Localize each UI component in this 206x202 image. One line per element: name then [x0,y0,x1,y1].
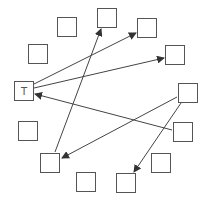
graph-node [178,83,198,103]
edges-layer [0,0,206,202]
graph-node [173,122,193,142]
graph-node [76,172,96,192]
graph-node [165,45,185,65]
graph-node-t: T [14,81,34,101]
edge-right-lower-to-t [35,94,172,130]
graph-node [18,121,38,141]
graph-node [137,18,157,38]
edge-t-to-right-upper [34,58,164,88]
edge-bottom-left-to-top [55,29,101,152]
graph-node [116,173,136,193]
graph-node [97,8,117,28]
graph-node [28,44,48,64]
graph-node [40,153,60,173]
graph-node [151,153,171,173]
graph-node [57,17,77,37]
edge-right-mid-to-bottom-left [62,97,177,158]
